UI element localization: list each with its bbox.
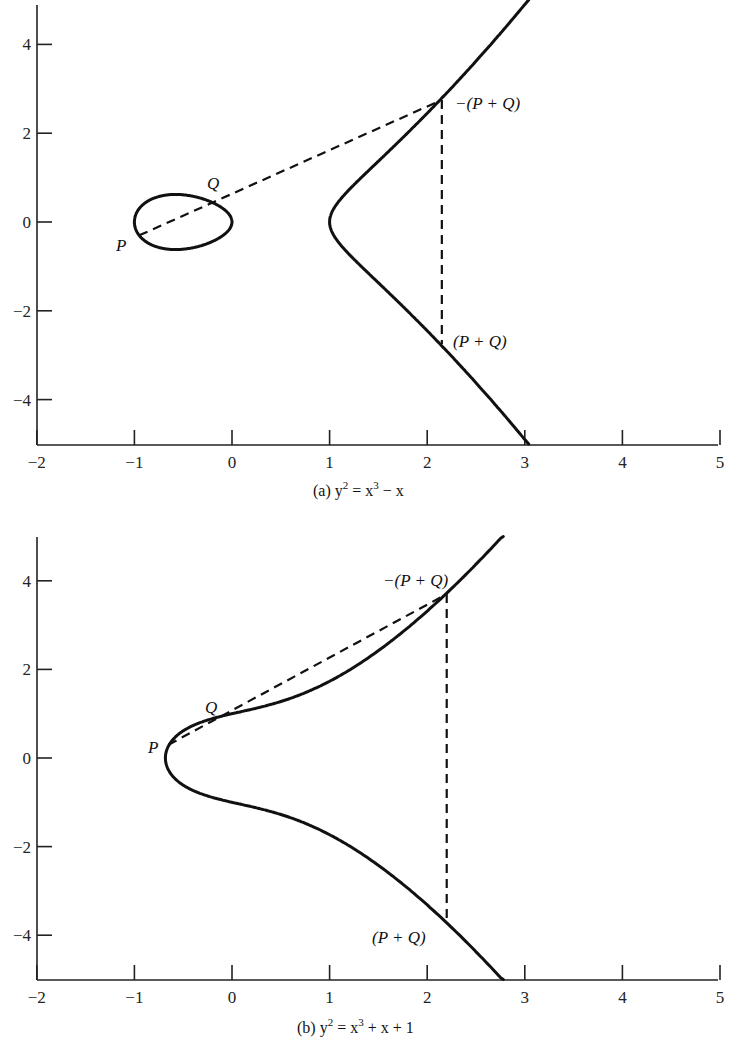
x-tick-label: 0 [228, 453, 237, 472]
secant-line [139, 100, 442, 235]
x-tick-label: −1 [125, 453, 143, 472]
x-tick-label: 2 [423, 988, 432, 1007]
x-tick-label: 2 [423, 453, 432, 472]
chart-caption: (a) y2 = x3 − x [313, 479, 404, 500]
y-tick-label: 2 [23, 124, 32, 143]
x-tick-label: 4 [618, 988, 627, 1007]
y-tick-label: −4 [13, 926, 32, 945]
y-tick-label: −2 [13, 302, 31, 321]
chart-a: 420−2−4 −2−1012345 P Q −(P + Q) (P + Q) … [13, 0, 724, 500]
x-tick-label: −2 [28, 453, 46, 472]
y-axis-ticks: 420−2−4 [13, 572, 52, 945]
x-tick-label: 0 [228, 988, 237, 1007]
point-label-neg-sum: −(P + Q) [455, 94, 520, 113]
x-tick-label: −2 [28, 988, 46, 1007]
elliptic-curve-figure: 420−2−4 −2−1012345 P Q −(P + Q) (P + Q) … [0, 0, 729, 1054]
y-tick-label: 4 [23, 35, 32, 54]
x-tick-label: 5 [716, 988, 725, 1007]
x-tick-label: 1 [325, 453, 334, 472]
point-label-q: Q [207, 174, 219, 193]
secant-line [169, 594, 447, 745]
point-label-p: P [115, 236, 126, 255]
curve [165, 537, 503, 980]
x-tick-label: −1 [125, 988, 143, 1007]
y-tick-label: 0 [23, 213, 32, 232]
y-tick-label: −4 [13, 391, 32, 410]
point-label-sum: (P + Q) [372, 928, 426, 947]
y-tick-label: −2 [13, 838, 31, 857]
y-tick-label: 4 [23, 572, 32, 591]
point-label-p: P [147, 738, 158, 757]
chart-b: 420−2−4 −2−1012345 P Q −(P + Q) (P + Q) … [13, 537, 724, 1038]
y-axis-ticks: 420−2−4 [13, 35, 52, 409]
x-tick-label: 4 [618, 453, 627, 472]
y-tick-label: 2 [23, 660, 32, 679]
point-label-sum: (P + Q) [453, 332, 507, 351]
y-tick-label: 0 [23, 749, 32, 768]
x-axis-ticks: −2−1012345 [28, 965, 724, 1007]
x-tick-label: 3 [521, 453, 530, 472]
curve-oval [134, 195, 232, 250]
point-label-q: Q [205, 698, 217, 717]
x-tick-label: 1 [325, 988, 334, 1007]
point-label-neg-sum: −(P + Q) [383, 571, 448, 590]
x-axis-ticks: −2−1012345 [28, 430, 724, 472]
x-tick-label: 5 [716, 453, 725, 472]
x-tick-label: 3 [521, 988, 530, 1007]
curve-branch [330, 0, 529, 444]
chart-caption: (b) y2 = x3 + x + 1 [297, 1016, 414, 1037]
